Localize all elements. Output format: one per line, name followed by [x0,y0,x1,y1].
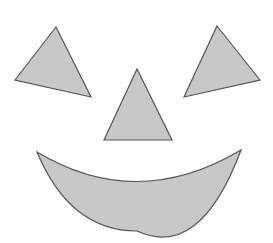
jack-o-lantern-face [0,0,273,243]
mouth-crescent [37,150,241,237]
face-drawing [0,0,273,243]
left-eye-triangle [15,27,91,97]
right-eye-triangle [184,26,260,97]
nose-triangle [104,69,172,140]
